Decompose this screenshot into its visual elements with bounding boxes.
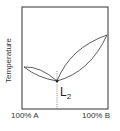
y-axis-label: Temperature [2, 30, 14, 90]
liquidus-right [57, 35, 107, 81]
liquidus-left [24, 67, 57, 81]
eutectic-label-main: L [60, 85, 67, 99]
x-axis-left-label: 100% A [11, 111, 39, 120]
solidus-left [24, 67, 57, 81]
x-axis-right-label: 100% B [82, 111, 110, 120]
y-axis-label-text: Temperature [4, 38, 13, 83]
eutectic-label: L2 [60, 85, 71, 101]
eutectic-label-subscript: 2 [67, 92, 71, 101]
solidus-right [57, 35, 107, 81]
